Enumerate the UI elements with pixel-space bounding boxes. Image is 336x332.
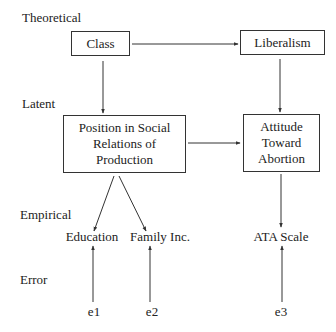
node-attitude-line-2: Toward [258,135,305,151]
edge-position-education [94,176,114,231]
level-label-theoretical: Theoretical [22,11,81,25]
node-e1: e1 [88,305,100,319]
level-label-empirical: Empirical [20,208,71,222]
node-e3: e3 [275,305,287,319]
node-family-inc: Family Inc. [130,230,190,244]
node-e2: e2 [146,305,158,319]
node-attitude-line-3: Abortion [258,151,305,167]
node-liberalism: Liberalism [240,30,325,55]
edge-position-familyinc [119,176,146,231]
node-class: Class [71,31,130,56]
level-label-error: Error [20,273,47,287]
level-label-latent: Latent [22,97,55,111]
node-education: Education [66,230,119,244]
node-position: Position in Social Relations of Producti… [63,115,186,173]
node-ata-scale: ATA Scale [254,230,309,244]
diagram-canvas: Theoretical Latent Empirical Error Class… [0,0,336,332]
node-position-line-2: Relations of [79,136,171,152]
node-attitude-line-1: Attitude [258,119,305,135]
node-attitude: Attitude Toward Abortion [243,114,320,172]
node-position-line-1: Position in Social [79,120,171,136]
node-class-label: Class [86,36,114,52]
node-position-line-3: Production [79,152,171,168]
node-liberalism-label: Liberalism [254,35,310,51]
